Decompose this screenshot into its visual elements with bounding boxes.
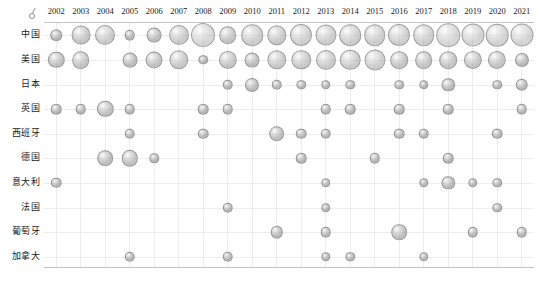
bubble-marker[interactable] xyxy=(510,24,533,47)
bubble-marker[interactable] xyxy=(48,52,64,68)
bubble-marker[interactable] xyxy=(321,80,330,89)
bubble-marker[interactable] xyxy=(390,51,408,69)
bubble-marker[interactable] xyxy=(51,104,62,115)
bubble-marker[interactable] xyxy=(346,252,355,261)
gridline-horizontal xyxy=(44,109,534,110)
bubble-marker[interactable] xyxy=(297,80,306,89)
bubble-marker[interactable] xyxy=(147,28,162,43)
bubble-marker[interactable] xyxy=(191,23,215,47)
bubble-marker[interactable] xyxy=(124,251,135,262)
bubble-marker[interactable] xyxy=(198,128,209,139)
bubble-marker[interactable] xyxy=(345,104,356,115)
bubble-marker[interactable] xyxy=(97,101,113,117)
bubble-marker[interactable] xyxy=(198,104,209,115)
bubble-marker[interactable] xyxy=(442,78,455,91)
bubble-marker[interactable] xyxy=(320,104,331,115)
bubble-marker[interactable] xyxy=(436,24,460,48)
bubble-marker[interactable] xyxy=(71,26,90,45)
bubble-marker[interactable] xyxy=(315,25,336,46)
bubble-marker[interactable] xyxy=(124,128,135,139)
bubble-marker[interactable] xyxy=(515,53,529,67)
bubble-marker[interactable] xyxy=(321,252,330,261)
bubble-marker[interactable] xyxy=(296,128,307,139)
bubble-marker[interactable] xyxy=(388,24,410,46)
bubble-marker[interactable] xyxy=(271,226,283,238)
bubble-marker[interactable] xyxy=(467,227,478,238)
bubble-marker[interactable] xyxy=(222,79,233,90)
bubble-marker[interactable] xyxy=(395,80,404,89)
bubble-marker[interactable] xyxy=(122,52,137,67)
bubble-marker[interactable] xyxy=(75,104,86,115)
country-axis-label: 法国 xyxy=(21,201,40,212)
country-axis-label: 日本 xyxy=(21,78,40,89)
bubble-marker[interactable] xyxy=(122,150,138,166)
bubble-marker[interactable] xyxy=(51,178,62,189)
bubble-marker[interactable] xyxy=(516,104,527,115)
bubble-marker[interactable] xyxy=(340,50,361,71)
bubble-marker[interactable] xyxy=(169,25,189,45)
bubble-marker[interactable] xyxy=(419,178,428,187)
bubble-marker[interactable] xyxy=(222,104,233,115)
bubble-marker[interactable] xyxy=(320,128,331,139)
bubble-marker[interactable] xyxy=(72,51,90,69)
bubble-marker[interactable] xyxy=(419,80,428,89)
bubble-marker[interactable] xyxy=(516,78,528,90)
bubble-marker[interactable] xyxy=(488,51,506,69)
bubble-marker[interactable] xyxy=(364,25,386,47)
bubble-marker[interactable] xyxy=(493,203,502,212)
bubble-marker[interactable] xyxy=(415,51,433,69)
bubble-marker[interactable] xyxy=(267,50,286,69)
bubble-marker[interactable] xyxy=(394,128,405,139)
bubble-marker[interactable] xyxy=(245,77,259,91)
bubble-marker[interactable] xyxy=(124,30,135,41)
bubble-marker[interactable] xyxy=(369,153,380,164)
bubble-marker[interactable] xyxy=(442,176,455,189)
bubble-marker[interactable] xyxy=(267,26,286,45)
bubble-marker[interactable] xyxy=(269,126,285,142)
year-axis-label: 2017 xyxy=(415,6,432,16)
bubble-marker[interactable] xyxy=(346,80,355,89)
bubble-marker[interactable] xyxy=(271,79,282,90)
bubble-marker[interactable] xyxy=(320,227,331,238)
bubble-marker[interactable] xyxy=(364,49,385,70)
bubble-marker[interactable] xyxy=(339,25,361,47)
bubble-marker[interactable] xyxy=(464,51,482,69)
bubble-marker[interactable] xyxy=(245,52,260,67)
bubble-marker[interactable] xyxy=(95,25,115,45)
bubble-marker[interactable] xyxy=(124,104,135,115)
bubble-marker[interactable] xyxy=(461,24,484,47)
year-axis-label: 2019 xyxy=(464,6,481,16)
bubble-marker[interactable] xyxy=(290,24,312,46)
bubble-marker[interactable] xyxy=(222,251,233,262)
bubble-marker[interactable] xyxy=(493,80,502,89)
bubble-marker[interactable] xyxy=(516,227,527,238)
bubble-marker[interactable] xyxy=(150,154,159,163)
bubble-marker[interactable] xyxy=(419,252,428,261)
bubble-marker[interactable] xyxy=(97,150,113,166)
bubble-marker[interactable] xyxy=(493,178,502,187)
bubble-marker[interactable] xyxy=(394,104,405,115)
bubble-marker[interactable] xyxy=(296,153,307,164)
bubble-marker[interactable] xyxy=(292,50,311,69)
bubble-marker[interactable] xyxy=(199,55,208,64)
bubble-marker[interactable] xyxy=(321,178,330,187)
bubble-marker[interactable] xyxy=(486,24,509,47)
bubble-marker[interactable] xyxy=(146,51,163,68)
bubble-marker[interactable] xyxy=(169,50,188,69)
bubble-marker[interactable] xyxy=(468,178,477,187)
bubble-marker[interactable] xyxy=(413,25,435,47)
bubble-marker[interactable] xyxy=(222,202,233,213)
bubble-marker[interactable] xyxy=(439,51,457,69)
bubble-marker[interactable] xyxy=(50,30,62,42)
bubble-marker[interactable] xyxy=(418,128,429,139)
bubble-marker[interactable] xyxy=(316,50,336,70)
bubble-marker[interactable] xyxy=(241,25,263,47)
bubble-marker[interactable] xyxy=(443,153,454,164)
bubble-marker[interactable] xyxy=(443,104,454,115)
year-axis-label: 2002 xyxy=(48,6,65,16)
bubble-marker[interactable] xyxy=(492,128,503,139)
bubble-marker[interactable] xyxy=(219,51,237,69)
bubble-marker[interactable] xyxy=(219,26,237,44)
bubble-marker[interactable] xyxy=(391,224,407,240)
bubble-marker[interactable] xyxy=(321,203,330,212)
